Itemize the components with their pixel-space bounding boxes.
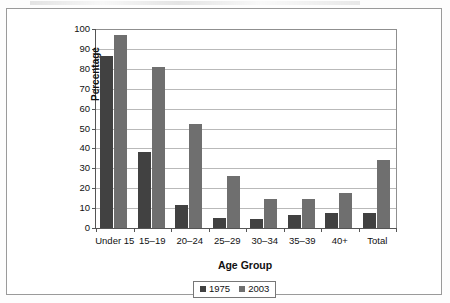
x-axis-title: Age Group [95, 259, 395, 271]
bar-group [96, 29, 134, 228]
bar-1975[interactable] [213, 218, 226, 228]
x-tick-mark [246, 228, 247, 232]
bar-1975[interactable] [363, 213, 376, 228]
y-tick-label: 60 [64, 104, 90, 114]
y-tick-label: 20 [64, 183, 90, 193]
bar-2003[interactable] [264, 199, 277, 228]
y-tick-label: 40 [64, 143, 90, 153]
y-tick-label: 10 [64, 203, 90, 213]
y-tick-label: 90 [64, 44, 90, 54]
bar-2003[interactable] [339, 193, 352, 228]
bar-group [359, 29, 397, 228]
plot-area: 1009080706050403020100 Percentage Under … [95, 29, 396, 229]
legend-label-1975: 1975 [209, 284, 230, 294]
x-tick-mark [284, 228, 285, 232]
y-tick-label: 50 [64, 124, 90, 134]
y-tick-label: 80 [64, 64, 90, 74]
bar-1975[interactable] [100, 56, 113, 228]
legend-item-1975[interactable]: 1975 [200, 284, 230, 294]
bar-1975[interactable] [250, 219, 263, 228]
bar-1975[interactable] [138, 152, 151, 228]
plot-right-edge [396, 29, 397, 228]
scan-artifact [30, 1, 360, 5]
bar-2003[interactable] [152, 67, 165, 228]
x-tick-mark [96, 228, 97, 232]
x-tick-mark [171, 228, 172, 232]
chart-frame: 1009080706050403020100 Percentage Under … [6, 8, 442, 295]
figure-canvas: 1009080706050403020100 Percentage Under … [0, 0, 450, 303]
x-tick-mark [134, 228, 135, 232]
x-tick-mark [321, 228, 322, 232]
y-tick-label: 100 [64, 24, 90, 34]
bar-group [171, 29, 209, 228]
bar-2003[interactable] [302, 199, 315, 228]
x-tick-label: Total [354, 235, 400, 246]
legend-swatch-icon-1975 [200, 286, 206, 292]
x-tick-mark [396, 228, 397, 232]
chart-legend: 1975 2003 [193, 281, 276, 298]
bar-2003[interactable] [227, 176, 240, 228]
bars-layer [96, 29, 396, 228]
x-tick-mark [209, 228, 210, 232]
bar-2003[interactable] [377, 160, 390, 228]
bar-2003[interactable] [114, 35, 127, 228]
y-tick-label: 0 [64, 223, 90, 233]
bar-1975[interactable] [288, 215, 301, 228]
bar-group [246, 29, 284, 228]
y-tick-label: 30 [64, 163, 90, 173]
bar-group [209, 29, 247, 228]
bar-1975[interactable] [325, 213, 338, 228]
legend-label-2003: 2003 [248, 284, 269, 294]
y-tick-label: 70 [64, 84, 90, 94]
bar-1975[interactable] [175, 205, 188, 228]
legend-item-2003[interactable]: 2003 [239, 284, 269, 294]
x-tick-mark [359, 228, 360, 232]
legend-swatch-icon-2003 [239, 286, 245, 292]
bar-2003[interactable] [189, 124, 202, 228]
bar-group [321, 29, 359, 228]
bar-group [284, 29, 322, 228]
bar-group [134, 29, 172, 228]
